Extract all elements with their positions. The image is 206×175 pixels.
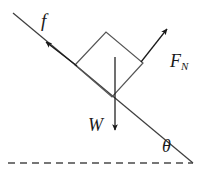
inclined-plane-free-body-diagram: f FN W θ [0,0,206,175]
friction-force-arrow [46,42,77,66]
normal-force-label-subscript: N [181,60,188,72]
normal-force-arrow [141,29,167,62]
normal-force-label: FN [170,52,188,72]
block-shape [75,32,143,97]
incline-angle-label: θ [162,137,171,155]
friction-force-label: f [41,11,46,30]
normal-force-label-base: F [170,51,181,71]
weight-force-label: W [88,116,103,134]
diagram-canvas [0,0,206,175]
